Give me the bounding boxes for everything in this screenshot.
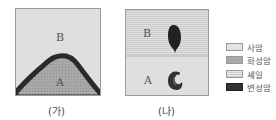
layer-label-a: A (56, 76, 64, 89)
caption-na: (나) (158, 103, 175, 118)
legend-label: 화성암 (247, 54, 271, 66)
shale-layer-b (126, 10, 209, 56)
sandstone-layer-a (126, 56, 209, 96)
cross-section-na (126, 10, 209, 96)
panel-ga-diagram: B A (15, 8, 101, 96)
layer-label-b: B (143, 27, 151, 40)
legend-item-sandstone: 사암 (226, 40, 271, 54)
legend: 사암 화성암 셰일 변성암 (226, 40, 271, 94)
legend-label: 변성암 (247, 81, 271, 93)
layer-label-b: B (56, 31, 64, 44)
shale-swatch-icon (226, 70, 243, 78)
metamorphic-swatch-icon (226, 83, 243, 91)
legend-label: 사암 (247, 41, 263, 53)
layer-label-a: A (144, 74, 152, 87)
caption-ga: (가) (48, 103, 65, 118)
igneous-swatch-icon (226, 56, 243, 64)
sandstone-swatch-icon (226, 43, 243, 51)
panel-na-diagram: B A (125, 9, 209, 96)
legend-item-igneous: 화성암 (226, 54, 271, 68)
legend-item-metamorphic: 변성암 (226, 81, 271, 95)
legend-item-shale: 셰일 (226, 67, 271, 81)
legend-label: 셰일 (247, 68, 263, 80)
